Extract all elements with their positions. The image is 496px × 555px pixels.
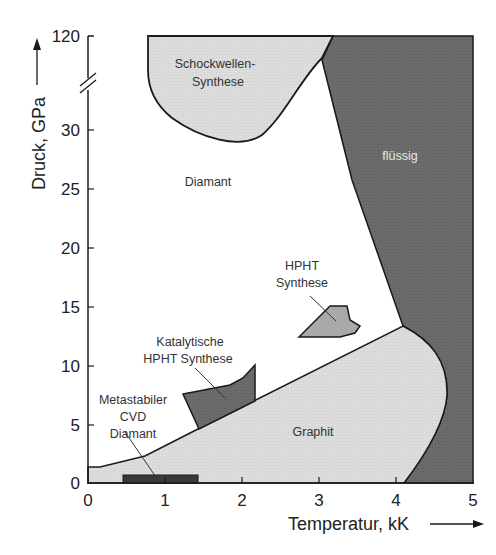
x-tick-label: 4 xyxy=(391,491,400,510)
region-hpht-synthesis xyxy=(299,306,360,337)
label-cvd: Diamant xyxy=(110,427,157,441)
label-catalytic: HPHT Synthese xyxy=(143,352,232,366)
label-catalytic: Katalytische xyxy=(156,335,223,349)
y-tick-label: 25 xyxy=(61,180,80,199)
label-cvd: CVD xyxy=(120,410,146,424)
x-tick-label: 1 xyxy=(160,491,169,510)
x-tick-label: 5 xyxy=(468,491,477,510)
region-cvd xyxy=(123,475,198,483)
x-axis-title: Temperatur, kK xyxy=(288,514,409,534)
y-tick-label: 120 xyxy=(52,27,80,46)
label-graphite: Graphit xyxy=(293,425,335,439)
y-tick-label: 30 xyxy=(61,121,80,140)
x-tick-label: 3 xyxy=(314,491,323,510)
label-diamond: Diamant xyxy=(185,175,232,189)
phase-diagram: 120 30 25 20 15 10 5 0 0 1 2 3 4 5 Tempe… xyxy=(0,0,496,555)
x-tick-label: 0 xyxy=(83,491,92,510)
y-tick-label: 20 xyxy=(61,239,80,258)
y-tick-label: 5 xyxy=(71,416,80,435)
y-axis-title: Druck, GPa xyxy=(29,96,49,190)
label-shockwave: Synthese xyxy=(192,75,244,89)
y-ticks xyxy=(88,130,94,425)
label-liquid: flüssig xyxy=(382,149,417,163)
label-shockwave: Schockwellen- xyxy=(175,57,256,71)
y-tick-label: 10 xyxy=(61,357,80,376)
label-hpht: Synthese xyxy=(276,276,328,290)
y-tick-label: 0 xyxy=(71,474,80,493)
x-tick-label: 2 xyxy=(237,491,246,510)
label-hpht: HPHT xyxy=(285,259,319,273)
label-cvd: Metastabiler xyxy=(99,393,167,407)
y-tick-label: 15 xyxy=(61,298,80,317)
